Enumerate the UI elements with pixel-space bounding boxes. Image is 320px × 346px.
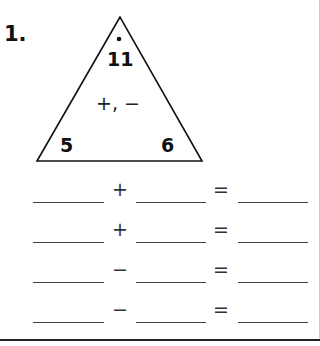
triangle-left-number: 5: [60, 134, 73, 156]
dot-icon: [117, 37, 122, 42]
answer-blank-1a[interactable]: [33, 202, 104, 203]
answer-blank-2c[interactable]: [238, 242, 308, 243]
equals-sign: =: [211, 259, 231, 279]
equals-sign: =: [211, 179, 231, 199]
operator-minus: −: [110, 259, 130, 279]
equals-sign: =: [211, 299, 231, 319]
answer-blank-3a[interactable]: [33, 282, 104, 283]
answer-blank-4a[interactable]: [33, 322, 104, 323]
answer-blank-4c[interactable]: [238, 322, 308, 323]
operator-minus: −: [110, 299, 130, 319]
triangle-top-number: 11: [107, 48, 133, 70]
equals-sign: =: [211, 219, 231, 239]
answer-blank-1b[interactable]: [136, 202, 206, 203]
bottom-border: [0, 339, 320, 341]
answer-blank-4b[interactable]: [136, 322, 206, 323]
answer-blank-3b[interactable]: [136, 282, 206, 283]
triangle-right-number: 6: [161, 134, 174, 156]
operator-plus: +: [110, 179, 130, 199]
answer-blank-1c[interactable]: [238, 202, 308, 203]
answer-blank-2a[interactable]: [33, 242, 104, 243]
fact-triangle: [0, 0, 320, 346]
triangle-operations: +, −: [96, 92, 140, 114]
answer-blank-3c[interactable]: [238, 282, 308, 283]
answer-blank-2b[interactable]: [136, 242, 206, 243]
operator-plus: +: [110, 219, 130, 239]
